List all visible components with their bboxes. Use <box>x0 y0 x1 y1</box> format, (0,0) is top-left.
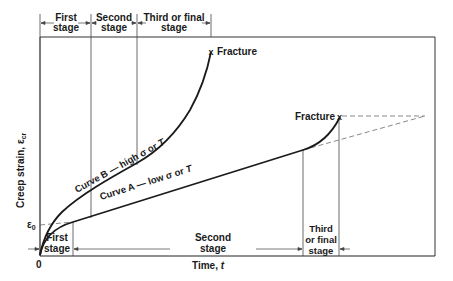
bottom-stage-second-line1: Second <box>195 232 231 243</box>
top-stage-labels: First stage Second stage Third or final … <box>53 12 205 33</box>
bottom-stage-third-line1: Third <box>309 223 333 234</box>
x-axis-label: Time, t <box>192 260 225 271</box>
fracture-marker-b: x <box>209 47 214 57</box>
fracture-label-b: Fracture <box>217 46 257 57</box>
top-stage-first-line2: stage <box>53 22 80 33</box>
bottom-stage-first-line1: First <box>46 232 68 243</box>
fracture-marker-a: x <box>337 112 342 122</box>
bottom-stage-third-line2: or final <box>305 234 337 245</box>
epsilon0-label: ε0 <box>27 219 36 231</box>
top-stage-third-line2: stage <box>161 22 188 33</box>
bottom-stage-first-line2: stage <box>44 243 71 254</box>
y-axis-label: Creep strain, εcr <box>15 132 27 208</box>
bottom-stage-second-line2: stage <box>200 243 227 254</box>
creep-diagram: First stage Second stage Third or final … <box>0 0 453 281</box>
bottom-stage-labels: First stage Second stage Third or final … <box>44 223 337 256</box>
bottom-stage-third-line3: stage <box>309 245 334 256</box>
fracture-label-a: Fracture <box>295 111 335 122</box>
top-stage-second-line2: stage <box>101 22 128 33</box>
origin-label: 0 <box>36 259 42 270</box>
bottom-stage-arrows <box>28 248 350 251</box>
plot-frame <box>40 37 435 256</box>
